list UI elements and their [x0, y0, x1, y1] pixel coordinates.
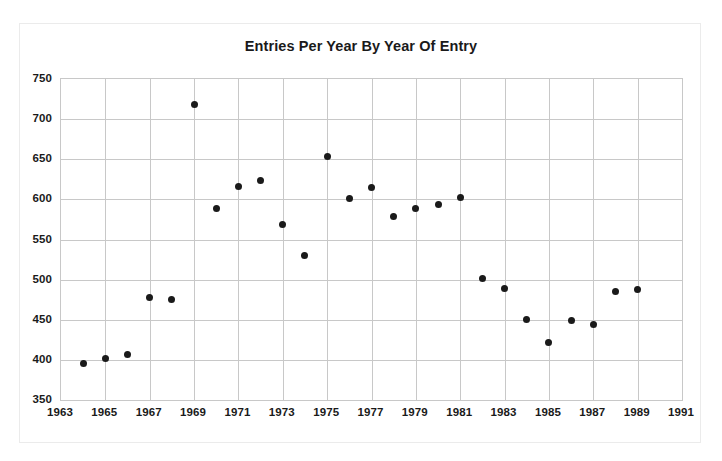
x-axis-tick-label: 1983: [481, 406, 527, 418]
y-axis-tick-label: 700: [18, 112, 52, 124]
data-point: [257, 177, 264, 184]
x-axis-tick-label: 1967: [126, 406, 172, 418]
figure-frame: Entries Per Year By Year Of Entry 350400…: [19, 23, 701, 443]
data-point: [634, 286, 641, 293]
gridline-vertical: [238, 79, 239, 400]
y-axis-tick-label: 550: [18, 233, 52, 245]
y-axis-tick-label: 350: [18, 393, 52, 405]
gridline-vertical: [505, 79, 506, 400]
x-axis-tick-label: 1963: [37, 406, 83, 418]
plot-area: [60, 78, 683, 401]
data-point: [545, 339, 552, 346]
x-axis-tick-label: 1973: [259, 406, 305, 418]
x-axis-tick-label: 1969: [170, 406, 216, 418]
data-point: [279, 221, 286, 228]
x-axis-tick-label: 1991: [658, 406, 704, 418]
data-point: [191, 101, 198, 108]
x-axis-tick-label: 1985: [525, 406, 571, 418]
x-axis-tick-label: 1979: [392, 406, 438, 418]
data-point: [301, 252, 308, 259]
gridline-vertical: [372, 79, 373, 400]
chart-title: Entries Per Year By Year Of Entry: [20, 38, 702, 54]
x-axis-tick-label: 1975: [303, 406, 349, 418]
data-point: [368, 184, 375, 191]
gridline-vertical: [194, 79, 195, 400]
y-axis-tick-label: 400: [18, 353, 52, 365]
data-point: [479, 275, 486, 282]
data-point: [412, 205, 419, 212]
y-axis-tick-label: 600: [18, 192, 52, 204]
data-point: [102, 355, 109, 362]
data-point: [324, 153, 331, 160]
y-axis-tick-label: 750: [18, 72, 52, 84]
data-point: [146, 294, 153, 301]
data-point: [612, 288, 619, 295]
y-axis-tick-label: 650: [18, 152, 52, 164]
data-point: [390, 213, 397, 220]
gridline-vertical: [460, 79, 461, 400]
data-point: [213, 205, 220, 212]
gridline-vertical: [549, 79, 550, 400]
gridline-vertical: [150, 79, 151, 400]
top-caption-text: [40, 0, 440, 8]
gridline-vertical: [638, 79, 639, 400]
data-point: [590, 321, 597, 328]
x-axis-tick-label: 1971: [214, 406, 260, 418]
data-point: [235, 183, 242, 190]
gridline-vertical: [283, 79, 284, 400]
x-axis-tick-label: 1965: [81, 406, 127, 418]
y-axis-tick-label: 450: [18, 313, 52, 325]
gridline-vertical: [416, 79, 417, 400]
x-axis-tick-label: 1977: [348, 406, 394, 418]
gridline-vertical: [327, 79, 328, 400]
data-point: [346, 195, 353, 202]
data-point: [168, 296, 175, 303]
y-axis-tick-label: 500: [18, 273, 52, 285]
data-point: [80, 360, 87, 367]
data-point: [501, 285, 508, 292]
data-point: [523, 316, 530, 323]
gridline-vertical: [593, 79, 594, 400]
x-axis-tick-label: 1987: [569, 406, 615, 418]
gridline-vertical: [105, 79, 106, 400]
data-point: [435, 201, 442, 208]
x-axis-tick-label: 1989: [614, 406, 660, 418]
data-point: [124, 351, 131, 358]
data-point: [457, 194, 464, 201]
page-root: Entries Per Year By Year Of Entry 350400…: [0, 0, 722, 461]
data-point: [568, 317, 575, 324]
x-axis-tick-label: 1981: [436, 406, 482, 418]
